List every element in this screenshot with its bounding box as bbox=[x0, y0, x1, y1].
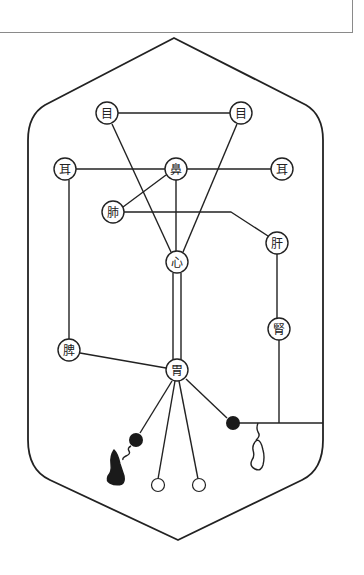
open-terminals bbox=[152, 479, 206, 492]
node-stomach: 胃 bbox=[166, 359, 188, 381]
node-heart: 心 bbox=[166, 251, 188, 273]
open-left bbox=[152, 479, 165, 492]
node-label: 目 bbox=[101, 107, 113, 121]
filled-terminals bbox=[129, 416, 240, 447]
node-label: 耳 bbox=[59, 163, 71, 177]
node-eye-right: 目 bbox=[230, 102, 252, 124]
dot-right bbox=[226, 416, 240, 430]
node-label: 脾 bbox=[63, 343, 75, 358]
open-right bbox=[193, 479, 206, 492]
node-ear-right: 耳 bbox=[271, 158, 293, 180]
node-label: 目 bbox=[235, 107, 247, 121]
node-label: 耳 bbox=[276, 163, 288, 177]
node-lung: 肺 bbox=[102, 201, 124, 223]
node-label: 心 bbox=[171, 256, 183, 270]
node-eye-left: 目 bbox=[96, 102, 118, 124]
node-label: 腎 bbox=[273, 323, 285, 337]
node-liver: 肝 bbox=[266, 232, 288, 254]
node-label: 肺 bbox=[107, 206, 119, 220]
node-ear-left: 耳 bbox=[54, 158, 76, 180]
node-label: 胃 bbox=[171, 364, 183, 378]
node-spleen: 脾 bbox=[58, 339, 80, 361]
dark-organ-shape bbox=[107, 450, 124, 485]
node-nose: 鼻 bbox=[165, 158, 187, 180]
kidney-shape bbox=[251, 440, 264, 470]
node-label: 肝 bbox=[271, 237, 283, 251]
node-kidney: 腎 bbox=[268, 318, 290, 340]
dot-left bbox=[129, 433, 143, 447]
node-label: 鼻 bbox=[170, 162, 182, 177]
organ-diagram: 目目耳鼻耳肺肝心腎脾胃 bbox=[0, 0, 364, 575]
